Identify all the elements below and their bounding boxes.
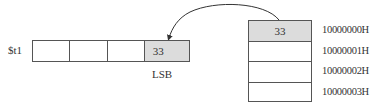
register-byte-3: [33, 41, 70, 61]
lsb-label: LSB: [152, 68, 172, 80]
memory-cell-2: [249, 62, 311, 83]
register-byte-2: [70, 41, 107, 61]
memory-cell-1: [249, 42, 311, 63]
register-byte-0-lsb: 33: [145, 41, 189, 61]
memory-address-2: 10000002H: [322, 65, 369, 76]
memory-address-3: 10000003H: [322, 86, 369, 97]
memory-cell-0: 33: [249, 21, 311, 42]
register-byte-1: [108, 41, 145, 61]
memory-address-1: 10000001H: [322, 45, 369, 56]
register-t1: 33: [32, 40, 190, 62]
memory-address-0: 10000000H: [322, 24, 369, 35]
memory-column: 33: [248, 20, 312, 102]
register-name: $t1: [8, 44, 22, 56]
memory-cell-3: [249, 83, 311, 104]
